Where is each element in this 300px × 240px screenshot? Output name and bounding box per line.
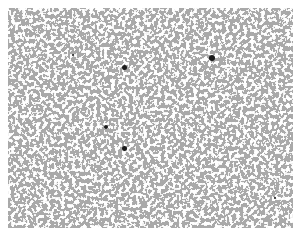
dark-particle: [122, 146, 127, 151]
dark-particle: [122, 65, 127, 70]
dark-particle: [72, 54, 74, 56]
speckle-texture: [8, 8, 293, 228]
dark-particle: [209, 55, 215, 61]
dark-particle: [104, 125, 108, 129]
micrograph-image: [8, 8, 293, 228]
